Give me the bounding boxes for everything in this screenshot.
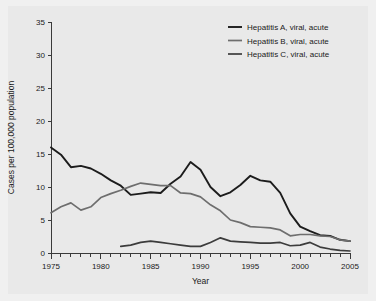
y-tick-label-15: 15 (36, 150, 45, 159)
y-axis-title: Cases per 100,000 population (6, 81, 16, 195)
x-tick-label-2000: 2000 (291, 262, 309, 271)
y-tick-label-0: 0 (41, 249, 46, 258)
y-tick-label-30: 30 (36, 51, 45, 60)
x-tick-label-1990: 1990 (192, 262, 210, 271)
x-axis-title: Year (192, 276, 209, 286)
x-tick-label-1975: 1975 (42, 262, 60, 271)
x-tick-label-1980: 1980 (92, 262, 110, 271)
series-line-a (51, 147, 350, 241)
series-line-c (121, 238, 350, 251)
y-tick-label-10: 10 (36, 183, 45, 192)
y-tick-label-35: 35 (36, 18, 45, 27)
x-tick-label-1995: 1995 (241, 262, 259, 271)
legend-label-c: Hepatitis C, viral, acute (247, 50, 330, 59)
y-tick-label-25: 25 (36, 84, 45, 93)
legend-label-b: Hepatitis B, viral, acute (247, 37, 329, 46)
y-tick-label-5: 5 (41, 216, 46, 225)
line-chart: 0510152025303519751980198519901995200020… (0, 0, 376, 301)
legend-label-a: Hepatitis A, viral, acute (247, 23, 329, 32)
chart-figure: 0510152025303519751980198519901995200020… (0, 0, 376, 301)
y-tick-label-20: 20 (36, 117, 45, 126)
x-tick-label-1985: 1985 (142, 262, 160, 271)
x-tick-label-2005: 2005 (341, 262, 359, 271)
series-line-b (51, 183, 350, 241)
